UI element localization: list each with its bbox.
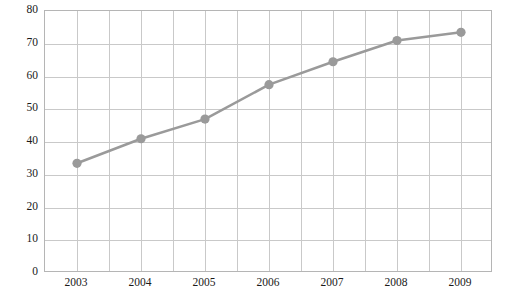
series-line bbox=[45, 11, 493, 273]
x-tick-label: 2009 bbox=[449, 277, 472, 289]
y-tick-label: 10 bbox=[0, 233, 38, 245]
x-tick-label: 2003 bbox=[65, 277, 88, 289]
x-tick-label: 2008 bbox=[385, 277, 408, 289]
x-tick-label: 2004 bbox=[129, 277, 152, 289]
x-tick-label: 2006 bbox=[257, 277, 280, 289]
y-tick-label: 50 bbox=[0, 102, 38, 114]
plot-area bbox=[44, 10, 492, 272]
y-tick-label: 30 bbox=[0, 168, 38, 180]
data-point bbox=[264, 80, 273, 89]
x-tick-label: 2005 bbox=[193, 277, 216, 289]
x-tick-label: 2007 bbox=[321, 277, 344, 289]
y-tick-label: 70 bbox=[0, 37, 38, 49]
series-polyline bbox=[77, 32, 461, 163]
y-tick-label: 40 bbox=[0, 135, 38, 147]
data-point bbox=[392, 36, 401, 45]
data-point bbox=[200, 114, 209, 123]
data-point bbox=[72, 159, 81, 168]
data-point bbox=[456, 28, 465, 37]
y-tick-label: 60 bbox=[0, 70, 38, 82]
y-tick-label: 20 bbox=[0, 201, 38, 213]
line-chart: 01020304050607080 2003200420052006200720… bbox=[0, 0, 516, 306]
y-tick-label: 0 bbox=[0, 266, 38, 278]
y-tick-label: 80 bbox=[0, 4, 38, 16]
data-point bbox=[328, 57, 337, 66]
data-point bbox=[136, 134, 145, 143]
series-markers bbox=[72, 28, 465, 168]
